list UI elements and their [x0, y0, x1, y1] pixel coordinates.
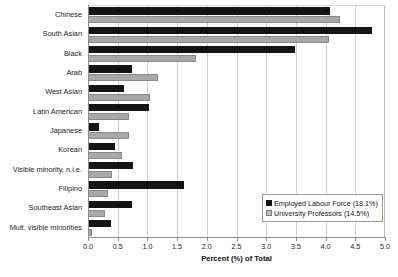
chart-legend: Employed Labour Force (18.1%) University…	[262, 194, 383, 222]
category-label: Latin American	[33, 102, 82, 121]
bar-employed-labour-force	[88, 123, 99, 130]
category-label: South Asian	[43, 24, 82, 43]
bar-employed-labour-force	[88, 201, 132, 208]
x-tick-mark	[355, 238, 356, 241]
category-label: Filipino	[59, 179, 82, 198]
x-axis-title: Percent (%) of Total	[88, 254, 385, 263]
x-tick-mark	[118, 238, 119, 241]
category-label: Black	[64, 44, 82, 63]
x-tick-label: 4.5	[350, 242, 360, 251]
x-tick-label: 3.5	[291, 242, 301, 251]
bar-employed-labour-force	[88, 220, 111, 227]
bar-university-professors	[88, 152, 122, 159]
legend-swatch-icon-professors	[266, 210, 272, 216]
bar-employed-labour-force	[88, 181, 184, 188]
legend-item-university-professors: University Professors (14.5%)	[266, 208, 378, 218]
legend-label-professors: University Professors (14.5%)	[274, 209, 369, 218]
bar-university-professors	[88, 94, 150, 101]
category-label: Visible minority, n.i.e.	[13, 160, 82, 179]
x-tick-label: 1.0	[142, 242, 152, 251]
category-label: Mult. visible minorities	[10, 218, 82, 237]
bar-employed-labour-force	[88, 46, 295, 53]
bar-group	[88, 83, 384, 102]
category-label: Chinese	[55, 5, 82, 24]
x-tick-label: 2.0	[202, 242, 212, 251]
x-tick-mark	[177, 238, 178, 241]
bar-group	[88, 161, 384, 180]
x-tick-label: 0.5	[113, 242, 123, 251]
category-label: Korean	[58, 140, 82, 159]
bar-group	[88, 103, 384, 122]
x-tick-label: 3.0	[261, 242, 271, 251]
bar-group	[88, 25, 384, 44]
bar-employed-labour-force	[88, 7, 330, 14]
category-axis-labels: ChineseSouth AsianBlackArabWest AsianLat…	[0, 5, 85, 237]
category-label: West Asian	[45, 82, 82, 101]
x-tick-mark	[88, 238, 89, 241]
x-tick-mark	[296, 238, 297, 241]
bar-university-professors	[88, 132, 129, 139]
legend-item-employed-labour-force: Employed Labour Force (18.1%)	[266, 198, 378, 208]
bar-university-professors	[88, 190, 108, 197]
legend-label-employed: Employed Labour Force (18.1%)	[274, 199, 378, 208]
x-tick-mark	[326, 238, 327, 241]
bar-employed-labour-force	[88, 143, 115, 150]
bar-university-professors	[88, 55, 196, 62]
x-tick-mark	[266, 238, 267, 241]
x-tick-mark	[207, 238, 208, 241]
bar-group	[88, 141, 384, 160]
bar-group	[88, 6, 384, 25]
bar-employed-labour-force	[88, 65, 132, 72]
bar-university-professors	[88, 210, 105, 217]
x-tick-label: 2.5	[232, 242, 242, 251]
x-tick-mark	[237, 238, 238, 241]
x-tick-label: 1.5	[172, 242, 182, 251]
bar-university-professors	[88, 74, 158, 81]
horizontal-bar-chart: ChineseSouth AsianBlackArabWest AsianLat…	[0, 0, 398, 277]
x-tick-mark	[385, 238, 386, 241]
x-tick-mark	[147, 238, 148, 241]
bar-employed-labour-force	[88, 162, 133, 169]
bar-employed-labour-force	[88, 27, 372, 34]
category-label: Southeast Asian	[29, 198, 82, 217]
x-tick-label: 0.0	[83, 242, 93, 251]
bar-university-professors	[88, 113, 129, 120]
bar-group	[88, 45, 384, 64]
y-axis-line	[88, 5, 89, 238]
bar-university-professors	[88, 16, 340, 23]
x-tick-label: 5.0	[380, 242, 390, 251]
category-label: Japanese	[50, 121, 82, 140]
bar-university-professors	[88, 171, 112, 178]
bar-employed-labour-force	[88, 85, 124, 92]
x-tick-label: 4.0	[321, 242, 331, 251]
bar-university-professors	[88, 36, 329, 43]
bar-employed-labour-force	[88, 104, 149, 111]
bar-group	[88, 64, 384, 83]
bar-group	[88, 122, 384, 141]
category-label: Arab	[66, 63, 82, 82]
legend-swatch-icon-employed	[266, 200, 272, 206]
